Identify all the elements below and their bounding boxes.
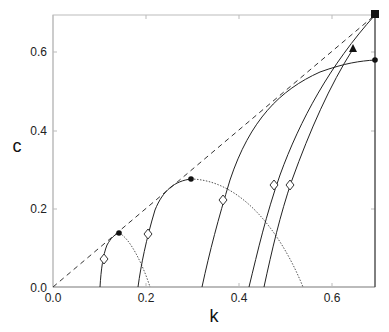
branch-4-curve [249, 15, 375, 287]
x-axis-label: k [210, 306, 220, 326]
square-marker [371, 10, 379, 18]
y-tick-0: 0.0 [30, 281, 47, 295]
diamond-marker-2 [144, 229, 152, 239]
circle-marker-branch-1 [116, 230, 122, 236]
branch-1-dotted [119, 233, 150, 287]
diamond-marker-3 [219, 195, 227, 205]
x-tick-0.4: 0.4 [231, 291, 248, 305]
circle-marker-branch-2 [188, 176, 194, 182]
circle-marker-right [372, 57, 378, 63]
diagonal-line [53, 15, 375, 287]
x-tick-0.6: 0.6 [324, 291, 341, 305]
y-tick-0.4: 0.4 [30, 124, 47, 138]
branch-5-curve [264, 49, 353, 287]
y-axis-label: c [13, 136, 22, 156]
y-tick-0.2: 0.2 [30, 202, 47, 216]
diamond-markers [100, 180, 294, 264]
y-tick-0.6: 0.6 [30, 45, 47, 59]
diamond-marker-4 [270, 180, 278, 190]
diamond-marker-5 [286, 180, 294, 190]
branch-2-dotted [191, 179, 303, 287]
branch-3-curve [202, 60, 375, 287]
chart: 0.0 0.2 0.4 0.6 0.0 0.2 0.4 0.6 k c [0, 0, 389, 332]
x-tick-0.2: 0.2 [138, 291, 155, 305]
diamond-marker-1 [100, 254, 108, 264]
x-tick-0: 0.0 [45, 291, 62, 305]
